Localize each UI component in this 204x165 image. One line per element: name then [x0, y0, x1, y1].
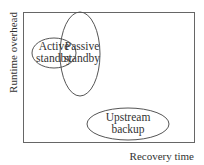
- passive-standby-label-line2: standby: [64, 52, 100, 65]
- x-axis-label: Recovery time: [130, 150, 195, 162]
- diagram-canvas: Active standby Passive standby Upstream …: [0, 0, 204, 165]
- y-axis-label: Runtime overhead: [7, 12, 19, 93]
- passive-standby-label-line1: Passive: [65, 40, 100, 52]
- upstream-backup-label-line2: backup: [111, 123, 144, 136]
